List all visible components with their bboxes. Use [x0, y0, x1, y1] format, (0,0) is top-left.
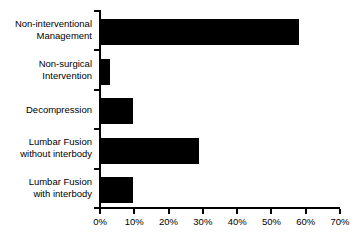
y-axis-tick-0 [94, 10, 100, 12]
category-label-4: Lumbar Fusion with interbody [0, 176, 92, 199]
bar-1 [100, 59, 110, 85]
category-label-2-line-0: Decompression [0, 104, 92, 116]
bar-3 [100, 138, 199, 164]
bar-0 [100, 19, 299, 45]
y-axis-tick-4 [94, 168, 100, 170]
y-axis-tick-1 [94, 49, 100, 51]
category-label-4-line-1: with interbody [0, 188, 92, 200]
x-axis-tick-2 [168, 209, 170, 214]
x-axis-tick-7 [339, 209, 341, 214]
bar-2 [100, 98, 133, 124]
y-axis-line [99, 10, 101, 208]
x-axis-tick-3 [202, 209, 204, 214]
category-axis-labels: Non-interventional Management Non-surgic… [0, 10, 92, 208]
category-label-3-line-0: Lumbar Fusion [0, 136, 92, 148]
category-label-3: Lumbar Fusion without interbody [0, 136, 92, 159]
category-label-4-line-0: Lumbar Fusion [0, 176, 92, 188]
x-axis-tick-4 [236, 209, 238, 214]
category-label-0-line-1: Management [0, 30, 92, 42]
category-label-2: Decompression [0, 104, 92, 116]
bar-4 [100, 177, 133, 203]
y-axis-tick-3 [94, 128, 100, 130]
plot-area [100, 10, 340, 208]
category-label-0-line-0: Non-interventional [0, 18, 92, 30]
category-label-0: Non-interventional Management [0, 18, 92, 41]
category-label-1-line-1: Intervention [0, 70, 92, 82]
bar-chart: Non-interventional Management Non-surgic… [0, 0, 355, 242]
x-axis-tick-5 [270, 209, 272, 214]
x-axis-tick-0 [99, 209, 101, 214]
category-label-1-line-0: Non-surgical [0, 58, 92, 70]
x-axis-tick-1 [133, 209, 135, 214]
x-axis-tick-label-7: 70% [320, 216, 355, 228]
category-label-3-line-1: without interbody [0, 148, 92, 160]
y-axis-tick-2 [94, 89, 100, 91]
x-axis-tick-6 [305, 209, 307, 214]
category-label-1: Non-surgical Intervention [0, 58, 92, 81]
